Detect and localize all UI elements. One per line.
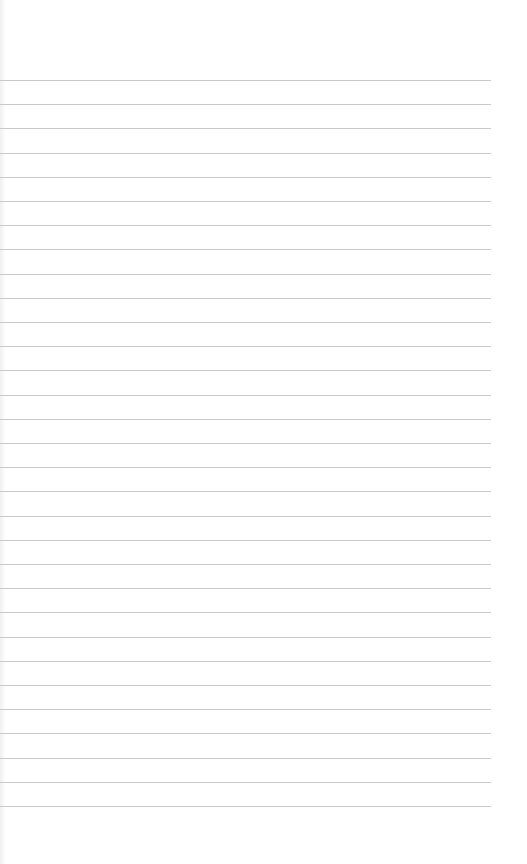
left-edge-shadow — [0, 0, 6, 864]
ruled-line — [0, 80, 491, 81]
ruled-line — [0, 637, 491, 638]
ruled-line — [0, 782, 491, 783]
ruled-paper — [0, 0, 527, 864]
ruled-line — [0, 540, 491, 541]
ruled-line — [0, 104, 491, 105]
ruled-line — [0, 201, 491, 202]
ruled-line — [0, 177, 491, 178]
ruled-line — [0, 661, 491, 662]
ruled-line — [0, 685, 491, 686]
ruled-line — [0, 733, 491, 734]
ruled-line — [0, 346, 491, 347]
ruled-line — [0, 322, 491, 323]
ruled-line — [0, 516, 491, 517]
ruled-line — [0, 370, 491, 371]
ruled-line — [0, 225, 491, 226]
ruled-line — [0, 491, 491, 492]
ruled-line — [0, 298, 491, 299]
ruled-line — [0, 153, 491, 154]
ruled-line — [0, 806, 491, 807]
ruled-line — [0, 274, 491, 275]
ruled-line — [0, 443, 491, 444]
ruled-line — [0, 612, 491, 613]
ruled-line — [0, 588, 491, 589]
ruled-line — [0, 249, 491, 250]
ruled-line — [0, 758, 491, 759]
ruled-line — [0, 564, 491, 565]
ruled-line — [0, 709, 491, 710]
ruled-line — [0, 419, 491, 420]
ruled-line — [0, 128, 491, 129]
ruled-line — [0, 395, 491, 396]
ruled-line — [0, 467, 491, 468]
